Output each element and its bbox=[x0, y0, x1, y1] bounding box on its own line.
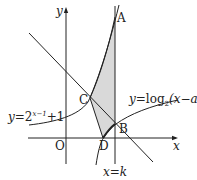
logarithm-equation-label: y=log2(x−a) bbox=[128, 92, 197, 108]
point-b-label: B bbox=[119, 122, 128, 136]
y-axis-arrow-icon bbox=[64, 7, 68, 13]
vertical-line-label: x=k bbox=[103, 165, 127, 179]
point-a-label: A bbox=[116, 11, 126, 25]
x-axis-label: x bbox=[173, 139, 180, 153]
origin-label: O bbox=[55, 139, 65, 153]
y-axis-label: y bbox=[55, 4, 63, 18]
diagram-canvas: y x O A B C D y=2x−1+1 y=log2(x−a) x=k bbox=[0, 0, 197, 180]
exponential-equation-label: y=2x−1+1 bbox=[7, 110, 64, 124]
point-c-label: C bbox=[79, 93, 88, 107]
point-d-label: D bbox=[99, 139, 109, 153]
